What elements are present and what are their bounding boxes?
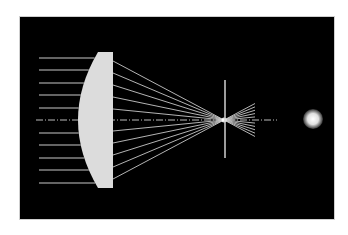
plano-convex-lens [78, 52, 113, 188]
focused-light-spot [303, 109, 323, 129]
lens-ray-diagram [0, 0, 348, 235]
